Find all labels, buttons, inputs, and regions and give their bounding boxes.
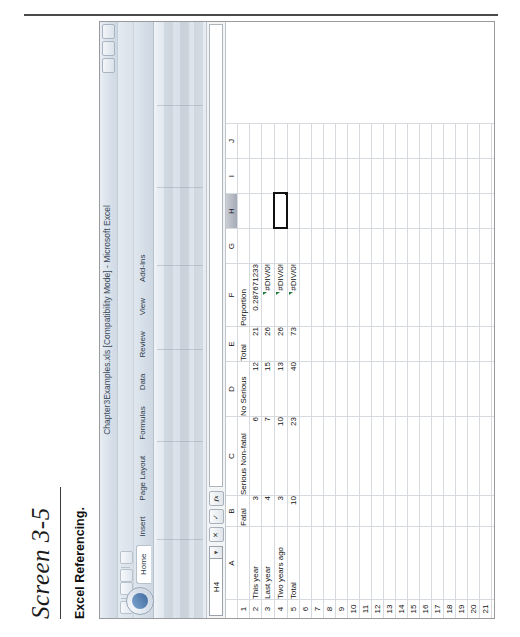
cell-e19[interactable] [456,326,468,361]
cell-g15[interactable] [408,228,420,263]
cell-d12[interactable] [372,361,384,416]
cell-b15[interactable] [408,495,420,526]
cell-b18[interactable] [444,495,456,526]
cell-e14[interactable] [396,326,408,361]
cell-e16[interactable] [420,326,432,361]
customize-icon[interactable] [120,551,133,564]
cell-c2[interactable]: 6 [250,416,262,495]
cell-e11[interactable] [360,326,372,361]
cell-g8[interactable] [324,228,336,263]
cell-i20[interactable] [468,158,480,193]
cell-g13[interactable] [384,228,396,263]
cell-a1[interactable] [238,526,250,599]
cell-f1[interactable]: Porportion [238,263,250,326]
cell-c8[interactable] [324,416,336,495]
cell-f21[interactable] [480,263,492,326]
cell-j6[interactable] [300,123,312,158]
cell-d13[interactable] [384,361,396,416]
cell-c5[interactable]: 23 [287,416,300,495]
cell-d20[interactable] [468,361,480,416]
cell-i5[interactable] [287,158,300,193]
column-header-b[interactable]: B [226,495,238,526]
cell-i21[interactable] [480,158,492,193]
cell-g17[interactable] [432,228,444,263]
cell-i22[interactable] [492,158,496,193]
cell-c12[interactable] [372,416,384,495]
cell-c14[interactable] [396,416,408,495]
cell-i16[interactable] [420,158,432,193]
cell-e4[interactable]: 26 [274,326,287,361]
cell-f13[interactable] [384,263,396,326]
cell-h17[interactable] [432,193,444,228]
cell-i8[interactable] [324,158,336,193]
cell-e13[interactable] [384,326,396,361]
row-header-17[interactable]: 17 [432,599,444,618]
row-header-4[interactable]: 4 [274,599,287,618]
cell-a8[interactable] [324,526,336,599]
row-header-7[interactable]: 7 [312,599,324,618]
cell-d11[interactable] [360,361,372,416]
cell-c15[interactable] [408,416,420,495]
cell-d17[interactable] [432,361,444,416]
cell-g21[interactable] [480,228,492,263]
cell-f5[interactable]: #DIV/0! [287,263,300,326]
cell-g14[interactable] [396,228,408,263]
row-header-13[interactable]: 13 [384,599,396,618]
cell-j16[interactable] [420,123,432,158]
column-header-f[interactable]: F [226,263,238,326]
cell-a2[interactable]: This year [250,526,262,599]
ribbon-body[interactable] [154,22,207,618]
cell-c18[interactable] [444,416,456,495]
cell-h21[interactable] [480,193,492,228]
cell-g7[interactable] [312,228,324,263]
formula-input[interactable] [209,24,223,487]
cell-g16[interactable] [420,228,432,263]
select-all-corner[interactable] [226,599,238,618]
cell-c20[interactable] [468,416,480,495]
cell-e21[interactable] [480,326,492,361]
cell-d22[interactable] [492,361,496,416]
cell-i4[interactable] [274,158,287,193]
cell-f14[interactable] [396,263,408,326]
cell-h2[interactable] [250,193,262,228]
tab-add-ins[interactable]: Add-Ins [136,246,151,290]
cell-j17[interactable] [432,123,444,158]
cell-d7[interactable] [312,361,324,416]
row-header-3[interactable]: 3 [262,599,275,618]
row-header-6[interactable]: 6 [300,599,312,618]
tab-data[interactable]: Data [136,365,151,398]
cell-b22[interactable] [492,495,496,526]
cell-e17[interactable] [432,326,444,361]
cell-f7[interactable] [312,263,324,326]
cell-e7[interactable] [312,326,324,361]
formula-bar-buttons[interactable]: ✕ ✓ fx [209,491,224,542]
cell-j1[interactable] [238,123,250,158]
cell-d10[interactable] [348,361,360,416]
cell-b7[interactable] [312,495,324,526]
tab-view[interactable]: View [136,290,151,323]
cell-i11[interactable] [360,158,372,193]
cell-c11[interactable] [360,416,372,495]
cell-e1[interactable]: Total [238,326,250,361]
spreadsheet-grid[interactable]: ABCDEFGHIJ1FatalSerious Non-fatalNo Seri… [226,22,495,618]
cell-h4[interactable] [274,193,287,228]
cell-b4[interactable]: 3 [274,495,287,526]
cell-d9[interactable] [336,361,348,416]
cell-d16[interactable] [420,361,432,416]
cell-h13[interactable] [384,193,396,228]
row-header-1[interactable]: 1 [238,599,250,618]
cell-j11[interactable] [360,123,372,158]
cell-f2[interactable]: 0.287671233 [250,263,262,326]
cell-b6[interactable] [300,495,312,526]
cell-i7[interactable] [312,158,324,193]
cell-c10[interactable] [348,416,360,495]
tab-insert[interactable]: Insert [136,508,151,544]
cell-a14[interactable] [396,526,408,599]
cell-e9[interactable] [336,326,348,361]
column-header-i[interactable]: I [226,158,238,193]
cell-g3[interactable] [262,228,275,263]
cell-a10[interactable] [348,526,360,599]
row-header-16[interactable]: 16 [420,599,432,618]
cell-c6[interactable] [300,416,312,495]
cell-c16[interactable] [420,416,432,495]
